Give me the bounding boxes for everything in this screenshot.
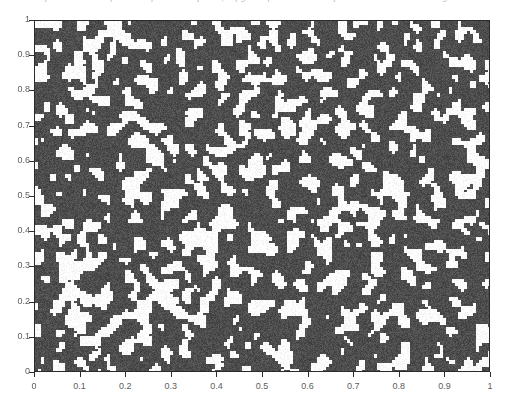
x-axis-tick — [353, 372, 354, 377]
y-axis-tick-label: 0 — [0, 366, 30, 376]
y-axis-tick-label: 0.9 — [0, 49, 30, 59]
x-axis-tick-label: 0.2 — [110, 381, 140, 391]
plot-area — [34, 20, 490, 372]
x-axis-tick — [262, 372, 263, 377]
x-axis-tick-label: 0.7 — [338, 381, 368, 391]
x-axis-tick-label: 0.4 — [201, 381, 231, 391]
x-axis-tick-label: 0.9 — [429, 381, 459, 391]
y-axis-tick-label: 1 — [0, 14, 30, 24]
x-axis-tick — [125, 372, 126, 377]
y-axis-tick-label: 0.3 — [0, 260, 30, 270]
x-axis-tick — [490, 372, 491, 377]
y-axis-tick-label: 0.2 — [0, 296, 30, 306]
x-axis-tick-label: 0.5 — [247, 381, 277, 391]
x-axis-tick-label: 0.8 — [384, 381, 414, 391]
x-axis-tick — [34, 372, 35, 377]
y-axis-tick-label: 0.1 — [0, 331, 30, 341]
x-axis-tick — [308, 372, 309, 377]
figure-container: 00.10.20.30.40.50.60.70.80.9100.10.20.30… — [0, 0, 507, 408]
x-axis-tick-label: 0.6 — [293, 381, 323, 391]
y-axis-tick-label: 0.7 — [0, 120, 30, 130]
x-axis-tick-label: 0 — [19, 381, 49, 391]
x-axis-tick-label: 0.3 — [156, 381, 186, 391]
y-axis-tick-label: 0.6 — [0, 155, 30, 165]
y-axis-tick-label: 0.4 — [0, 225, 30, 235]
y-axis-tick-label: 0.8 — [0, 84, 30, 94]
x-axis-tick — [399, 372, 400, 377]
y-axis-tick-label: 0.5 — [0, 190, 30, 200]
x-axis-tick-label: 0.1 — [65, 381, 95, 391]
x-axis-tick — [171, 372, 172, 377]
microstructure-texture — [35, 21, 490, 372]
x-axis-tick — [80, 372, 81, 377]
x-axis-tick — [216, 372, 217, 377]
x-axis-tick — [444, 372, 445, 377]
x-axis-tick-label: 1 — [475, 381, 505, 391]
